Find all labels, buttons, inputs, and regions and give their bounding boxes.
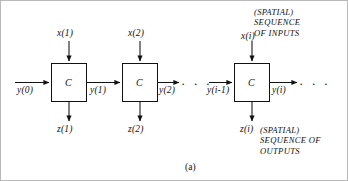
input-label-i: x(i)	[241, 32, 255, 42]
chain-label-y0: y(0)	[17, 86, 33, 96]
block-1-letter: C	[65, 78, 72, 88]
input-label-2: x(2)	[128, 29, 144, 39]
output-label-2: z(2)	[128, 125, 144, 135]
block-i-letter: C	[248, 78, 255, 88]
chain-label-y1: y(1)	[90, 86, 106, 96]
output-label-1: z(1)	[57, 125, 73, 135]
caption-inputs: (SPATIAL) SEQUENCE OF INPUTS	[254, 7, 300, 38]
chain-label-y2: y(2)	[159, 86, 175, 96]
output-label-i: z(i)	[240, 125, 253, 135]
figure-panel: C C C x(1) x(2) x(i) z(1) z(2) z(i) y(0)…	[0, 0, 348, 181]
ellipsis-middle: · · ·	[181, 77, 213, 90]
caption-outputs: (SPATIAL) SEQUENCE OF OUTPUTS	[260, 125, 321, 156]
chain-label-yi: y(i)	[272, 86, 286, 96]
figure-label: (a)	[185, 163, 196, 173]
ellipsis-right: · · ·	[299, 77, 331, 90]
block-2-letter: C	[136, 78, 143, 88]
input-label-1: x(1)	[57, 29, 73, 39]
